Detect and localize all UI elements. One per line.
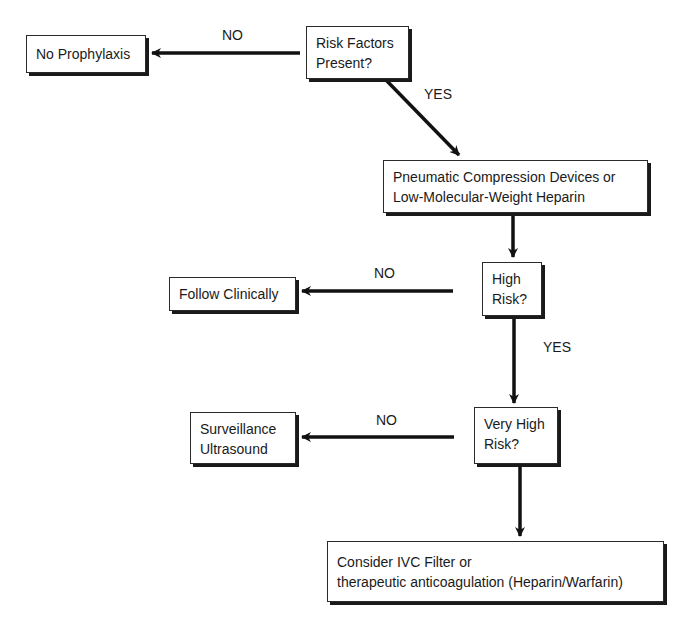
node-text: Very High xyxy=(484,414,548,434)
edge-label-yes: YES xyxy=(543,339,571,355)
node-text: No Prophylaxis xyxy=(36,44,136,64)
node-text: Follow Clinically xyxy=(179,284,286,304)
node-pneumatic: Pneumatic Compression Devices or Low-Mol… xyxy=(383,160,648,213)
node-text: Risk? xyxy=(484,434,548,454)
node-text: Surveillance xyxy=(200,419,286,439)
node-text: Risk Factors xyxy=(316,33,399,53)
node-text: Ultrasound xyxy=(200,439,286,459)
node-follow-clinically: Follow Clinically xyxy=(169,277,296,311)
edge-label-no: NO xyxy=(374,265,395,281)
edge-label-no: NO xyxy=(376,412,397,428)
node-text: Present? xyxy=(316,53,399,73)
node-no-prophylaxis: No Prophylaxis xyxy=(26,35,146,73)
node-ivc-filter: Consider IVC Filter or therapeutic antic… xyxy=(327,541,664,602)
node-text: Low-Molecular-Weight Heparin xyxy=(393,187,638,207)
node-text: High xyxy=(492,269,532,289)
node-text: Risk? xyxy=(492,289,532,309)
node-risk-factors: Risk Factors Present? xyxy=(306,26,409,79)
node-high-risk: High Risk? xyxy=(482,262,542,316)
edge-label-yes: YES xyxy=(424,86,452,102)
node-text: Consider IVC Filter or xyxy=(337,552,654,572)
node-text: therapeutic anticoagulation (Heparin/War… xyxy=(337,572,654,592)
edge-label-no: NO xyxy=(222,27,243,43)
node-very-high-risk: Very High Risk? xyxy=(474,407,558,464)
node-text: Pneumatic Compression Devices or xyxy=(393,167,638,187)
connector-arrows xyxy=(0,0,684,634)
node-surveillance: Surveillance Ultrasound xyxy=(190,412,296,464)
